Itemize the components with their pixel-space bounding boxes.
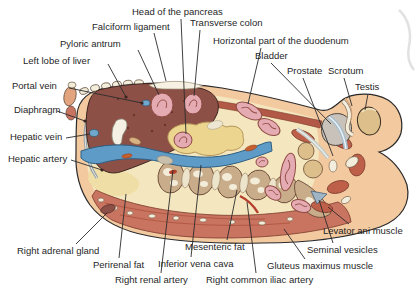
label-pyloric-antrum: Pyloric antrum [60,39,121,49]
label-right-renal-artery: Right renal artery [115,275,188,285]
label-right-common-iliac-artery: Right common iliac artery [206,275,313,285]
label-inferior-vena-cava: Inferior vena cava [158,259,234,269]
anatomy-figure: Head of the pancreasFalciform ligamentTr… [0,0,416,291]
label-bladder: Bladder [255,51,288,61]
label-gluteus-maximus-muscle: Gluteus maximus muscle [267,261,373,271]
label-falciform-ligament: Falciform ligament [92,22,170,32]
label-seminal-vesicles: Seminal vesicles [307,245,378,255]
background-sketch-line [399,10,414,70]
label-left-lobe-of-liver: Left lobe of liver [23,56,90,66]
costal-edge [62,85,78,107]
label-right-adrenal-gland: Right adrenal gland [17,246,99,256]
rib-icon [68,82,76,88]
pelvic-bone-bit [329,160,337,172]
label-transverse-colon: Transverse colon [190,18,263,28]
muscle-edge [66,106,76,120]
label-hepatic-vein: Hepatic vein [10,132,62,142]
label-scrotum: Scrotum [328,66,363,76]
label-mesenteric-fat: Mesenteric fat [185,242,245,252]
label-prostate: Prostate [287,66,322,76]
portal-vein-branch [142,100,150,106]
label-portal-vein: Portal vein [12,81,57,91]
label-head-of-the-pancreas: Head of the pancreas [132,7,223,17]
label-horizontal-part-of-the-duodenum: Horizontal part of the duodenum [213,36,349,46]
label-testis: Testis [355,82,379,92]
pelvic-organ-oval [298,143,314,160]
hepatic-vein-branch [90,130,99,137]
pelvic-organ-oval [304,160,323,178]
label-diaphragm: Diaphragm [14,105,60,115]
label-levator-ani-muscle: Levator ani muscle [323,226,403,236]
label-perirenal-fat: Perirenal fat [93,260,144,270]
label-hepatic-artery: Hepatic artery [8,154,67,164]
